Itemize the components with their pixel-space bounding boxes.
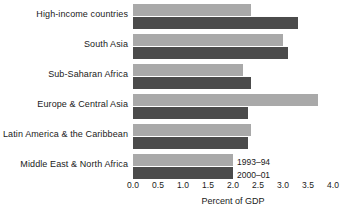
x-tick-label: 2.0 [227,180,239,190]
x-tick-label: 1.0 [177,180,189,190]
bar-1993-94 [133,34,283,46]
bar-1993-94 [133,94,318,106]
bar-1993-94 [133,64,243,76]
category-label-middle-east-north-africa: Middle East & North Africa [0,159,128,169]
bar-1993-94 [133,124,251,136]
category-label-high-income-countries: High-income countries [0,9,128,19]
x-tick-label: 3.0 [277,180,289,190]
x-tick-label: 2.5 [252,180,264,190]
x-axis: 0.0 0.5 1.0 1.5 2.0 2.5 3.0 3.5 4.0 Perc… [133,178,333,218]
x-axis-title: Percent of GDP [133,196,333,206]
x-tick-label: 4.0 [327,180,339,190]
bar-group [133,34,333,60]
category-label-south-asia: South Asia [0,39,128,49]
bar-group [133,4,333,30]
category-label-latin-america-caribbean: Latin America & the Caribbean [0,129,128,139]
x-tick-label: 3.5 [302,180,314,190]
category-label-europe-central-asia: Europe & Central Asia [0,99,128,109]
bar-1993-94 [133,4,251,16]
x-tick-label: 0.0 [127,180,139,190]
plot-area [133,0,333,178]
bar-2000-01 [133,137,248,149]
bar-2000-01 [133,17,298,29]
bar-2000-01 [133,107,248,119]
bar-2000-01 [133,47,288,59]
bar-group [133,124,333,150]
bar-2000-01 [133,77,251,89]
bar-group [133,154,333,180]
bar-chart: High-income countries South Asia Sub-Sah… [0,0,357,218]
bar-group [133,64,333,90]
legend-item-1993-94: 1993–94 [237,157,270,167]
bar-group [133,94,333,120]
x-tick-label: 1.5 [202,180,214,190]
bar-1993-94 [133,154,233,166]
x-tick-label: 0.5 [152,180,164,190]
category-label-sub-saharan-africa: Sub-Saharan Africa [0,69,128,79]
